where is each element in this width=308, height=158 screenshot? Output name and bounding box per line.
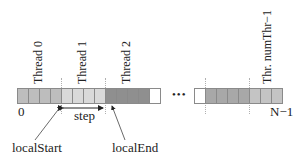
step-label: step: [74, 108, 95, 124]
local-start-label: localStart: [12, 140, 62, 156]
local-end-label: localEnd: [112, 140, 158, 156]
annotation-arrows: [0, 0, 308, 158]
